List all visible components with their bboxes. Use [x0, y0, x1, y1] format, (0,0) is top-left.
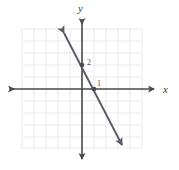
point-y-intercept — [80, 63, 85, 68]
graph-canvas: 2 1 x y — [0, 0, 179, 170]
coordinate-plane-figure: 2 1 x y — [0, 0, 179, 170]
y-axis-label: y — [77, 2, 83, 14]
x-axis-label: x — [162, 83, 168, 95]
point-x-intercept — [92, 87, 97, 92]
x-intercept-label: 1 — [97, 79, 101, 88]
y-intercept-label: 2 — [87, 58, 91, 67]
